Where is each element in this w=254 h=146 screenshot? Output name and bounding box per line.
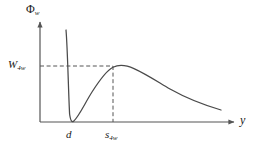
minimum-tick-label: d: [66, 129, 72, 140]
y-axis-label: Φw: [26, 3, 39, 17]
y-axis-label-subscript: w: [35, 9, 40, 17]
potential-energy-chart: Φw W4w y d s4w: [0, 0, 254, 146]
x-axis-label: y: [240, 114, 245, 126]
chart-canvas: [0, 0, 254, 146]
barrier-height-base: W: [8, 58, 17, 70]
barrier-height-label: W4w: [8, 59, 25, 72]
y-axis-label-base: Φ: [26, 2, 35, 16]
barrier-height-subscript: 4w: [17, 64, 25, 72]
interaction-potential-curve: [66, 30, 221, 122]
barrier-tick-label: s4w: [105, 129, 117, 142]
barrier-tick-subscript: 4w: [109, 134, 117, 142]
